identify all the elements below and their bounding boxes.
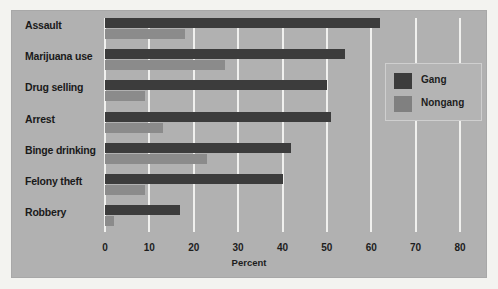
bar-nongang-marijuana-use	[105, 60, 225, 70]
bar-nongang-binge-drinking	[105, 154, 207, 164]
category-label-robbery: Robbery	[25, 206, 111, 218]
bar-gang-binge-drinking	[105, 143, 291, 153]
x-tick-50: 50	[314, 242, 340, 253]
x-tick-80: 80	[447, 242, 473, 253]
x-tick-60: 60	[358, 242, 384, 253]
bar-gang-robbery	[105, 205, 180, 215]
x-tick-70: 70	[403, 242, 429, 253]
category-label-assault: Assault	[25, 19, 111, 31]
gridline-70	[415, 18, 417, 232]
bar-nongang-arrest	[105, 123, 163, 133]
bar-gang-felony-theft	[105, 174, 283, 184]
x-tick-20: 20	[181, 242, 207, 253]
legend-label-gang: Gang	[421, 74, 447, 85]
category-label-marijuana-use: Marijuana use	[25, 50, 111, 62]
chart-legend: GangNongang	[385, 63, 482, 121]
x-tick-10: 10	[136, 242, 162, 253]
gridline-80	[459, 18, 461, 232]
bar-gang-drug-selling	[105, 80, 327, 90]
chart-figure: AssaultMarijuana useDrug sellingArrestBi…	[0, 0, 498, 289]
category-label-drug-selling: Drug selling	[25, 81, 111, 93]
category-label-felony-theft: Felony theft	[25, 175, 111, 187]
bar-gang-arrest	[105, 112, 331, 122]
x-axis-title: Percent	[11, 257, 487, 268]
legend-swatch-nongang	[394, 96, 412, 112]
x-tick-40: 40	[270, 242, 296, 253]
bar-gang-assault	[105, 18, 380, 28]
gridline-60	[370, 18, 372, 232]
x-tick-30: 30	[225, 242, 251, 253]
category-label-binge-drinking: Binge drinking	[25, 144, 111, 156]
legend-swatch-gang	[394, 73, 412, 89]
chart-plot-panel: AssaultMarijuana useDrug sellingArrestBi…	[11, 10, 487, 278]
x-tick-0: 0	[92, 242, 118, 253]
category-label-arrest: Arrest	[25, 113, 111, 125]
bar-nongang-assault	[105, 29, 185, 39]
legend-label-nongang: Nongang	[421, 97, 464, 108]
bar-gang-marijuana-use	[105, 49, 345, 59]
